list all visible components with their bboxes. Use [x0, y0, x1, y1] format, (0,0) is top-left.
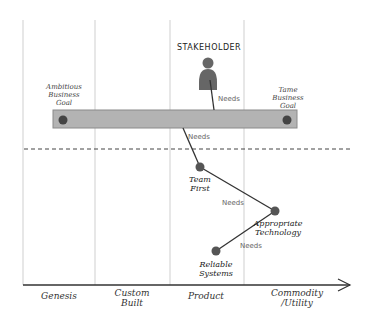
edge-label: Needs — [240, 242, 262, 250]
stage-custom-built: Custom Built — [100, 288, 164, 308]
goal-left-dot — [59, 116, 68, 125]
goal-left-line2: Business — [44, 91, 84, 99]
goal-left-line3: Goal — [44, 99, 84, 107]
stage-label-line: Custom — [100, 288, 164, 298]
edge-label: Needs — [222, 199, 244, 207]
node-label-line: First — [180, 184, 220, 193]
edge-label: Needs — [218, 95, 240, 103]
stage-label-line: Built — [100, 298, 164, 308]
node-team-first — [196, 163, 205, 172]
node-appropriate-technology — [271, 207, 280, 216]
goal-right-line3: Goal — [268, 102, 308, 110]
goal-bar — [53, 110, 297, 128]
node-label-line: Team — [180, 175, 220, 184]
goal-left-line1: Ambitious — [44, 83, 84, 91]
goal-right-dot — [283, 116, 292, 125]
stage-commodity-utility: Commodity /Utility — [262, 288, 332, 308]
stage-genesis: Genesis — [28, 291, 90, 301]
goal-left-label: Ambitious Business Goal — [44, 83, 84, 107]
node-label-line: Appropriate — [248, 219, 308, 228]
goal-right-label: Tame Business Goal — [268, 86, 308, 110]
node-appropriate-technology-label: Appropriate Technology — [248, 219, 308, 237]
node-label-line: Reliable — [194, 260, 238, 269]
stage-label-line: Commodity — [262, 288, 332, 298]
goal-right-line1: Tame — [268, 86, 308, 94]
stage-label-line: /Utility — [262, 298, 332, 308]
stage-product: Product — [174, 291, 238, 301]
stage-label-line: Genesis — [28, 291, 90, 301]
stakeholder-label: STAKEHOLDER — [177, 43, 241, 52]
node-team-first-label: Team First — [180, 175, 220, 193]
node-reliable-systems-label: Reliable Systems — [194, 260, 238, 278]
edge-label: Needs — [188, 133, 210, 141]
node-label-line: Systems — [194, 269, 238, 278]
node-label-line: Technology — [248, 228, 308, 237]
node-reliable-systems — [212, 247, 221, 256]
person-icon — [199, 58, 217, 91]
goal-right-line2: Business — [268, 94, 308, 102]
stage-label-line: Product — [174, 291, 238, 301]
